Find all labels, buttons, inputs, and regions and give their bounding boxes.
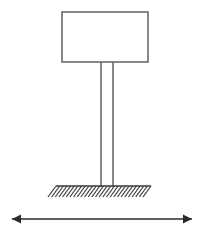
- ground-hatch-line: [66, 186, 74, 197]
- ground-hatch-line: [136, 186, 144, 197]
- horizontal-direction-arrow: [12, 215, 192, 224]
- ground-hatch-line: [85, 186, 93, 197]
- ground-hatch-line: [77, 186, 85, 197]
- ground-hatch-line: [99, 186, 107, 197]
- ground-hatch-line: [110, 186, 118, 197]
- ground-hatch-line: [74, 186, 82, 197]
- arrow-head-left-icon: [12, 215, 21, 224]
- ground-hatch-line: [92, 186, 100, 197]
- ground-hatch-line: [96, 186, 104, 197]
- ground-hatch-line: [117, 186, 125, 197]
- structural-schematic-svg: [0, 0, 203, 237]
- ground-hatch-line: [103, 186, 111, 197]
- diagram-canvas: [0, 0, 203, 237]
- ground-hatch-line: [132, 186, 140, 197]
- ground-hatch-line: [114, 186, 122, 197]
- ground-support: [48, 186, 151, 197]
- ground-hatch-line: [121, 186, 129, 197]
- ground-hatch-line: [106, 186, 114, 197]
- ground-hatch-lines: [48, 186, 151, 197]
- sign-panel: [62, 12, 148, 62]
- ground-hatch-line: [48, 186, 56, 197]
- ground-hatch-line: [128, 186, 136, 197]
- ground-hatch-line: [81, 186, 89, 197]
- ground-hatch-line: [63, 186, 71, 197]
- ground-hatch-line: [139, 186, 147, 197]
- arrow-head-right-icon: [183, 215, 192, 224]
- ground-hatch-line: [52, 186, 60, 197]
- ground-hatch-line: [88, 186, 96, 197]
- ground-hatch-line: [55, 186, 63, 197]
- ground-hatch-line: [70, 186, 78, 197]
- support-post: [101, 62, 113, 187]
- ground-hatch-line: [125, 186, 133, 197]
- ground-hatch-line: [143, 186, 151, 197]
- ground-hatch-line: [59, 186, 67, 197]
